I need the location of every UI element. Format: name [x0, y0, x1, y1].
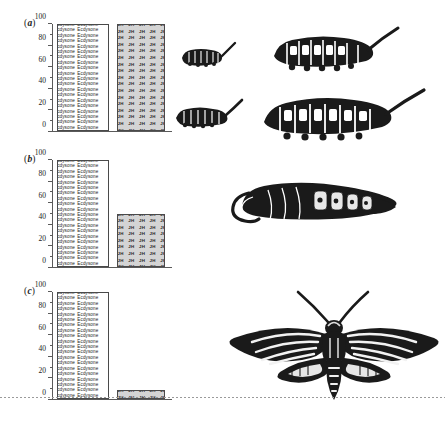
y-tick-20 — [48, 245, 52, 246]
y-tick-minor — [50, 345, 53, 346]
y-tick-label-60: 60 — [39, 324, 47, 332]
jh-bar: JH JH JH JH JH JH JH JH JH JH JH JH JH J… — [117, 214, 165, 268]
y-tick-100 — [48, 159, 52, 160]
larva-instar-2 — [172, 96, 254, 132]
y-tick-20 — [48, 377, 52, 378]
x-axis-line — [52, 131, 172, 132]
ecdysone-bar-fill-text: Ecdysone Ecdysone Ecdysone Ecdysone Ecdy… — [57, 24, 109, 131]
y-tick-minor — [50, 170, 53, 171]
jh-bar: JH JH JH JH JH JH JH JH JH JH JH JH JH J… — [117, 24, 165, 131]
y-tick-minor — [50, 55, 53, 56]
y-tick-minor — [50, 367, 53, 368]
y-tick-label-0: 0 — [42, 389, 46, 397]
panel-a: (a) 0 20 40 60 80 100 Ecdysone Ec — [0, 14, 445, 150]
y-tick-minor — [50, 256, 53, 257]
y-tick-label-100: 100 — [35, 281, 46, 289]
y-tick-label-60: 60 — [39, 56, 47, 64]
larva-instar-1 — [178, 38, 244, 70]
y-tick-label-60: 60 — [39, 192, 47, 200]
jh-bar-fill-text: JH JH JH JH JH JH JH JH JH JH JH JH JH J… — [117, 214, 165, 268]
panel-c: (c) 0 20 40 60 80 100 Ecdysone Ec — [0, 282, 445, 410]
y-tick-100 — [48, 23, 52, 24]
y-tick-0 — [48, 267, 52, 268]
x-axis-line — [52, 267, 172, 268]
y-tick-label-20: 20 — [39, 235, 47, 243]
y-tick-0 — [48, 131, 52, 132]
y-tick-minor — [50, 213, 53, 214]
y-tick-0 — [48, 399, 52, 400]
y-tick-minor — [50, 34, 53, 35]
ecdysone-bar-fill-text: Ecdysone Ecdysone Ecdysone Ecdysone Ecdy… — [57, 160, 109, 267]
panel-b-plot: 0 20 40 60 80 100 Ecdysone Ecdysone Ecdy… — [52, 160, 172, 268]
y-tick-minor — [50, 191, 53, 192]
panel-c-bars: Ecdysone Ecdysone Ecdysone Ecdysone Ecdy… — [55, 292, 172, 399]
y-tick-60 — [48, 202, 52, 203]
y-tick-minor — [50, 235, 53, 236]
y-tick-40 — [48, 356, 52, 357]
y-tick-80 — [48, 45, 52, 46]
y-tick-label-80: 80 — [39, 34, 47, 42]
y-tick-100 — [48, 291, 52, 292]
panel-b: (b) 0 20 40 60 80 100 Ecdysone Ec — [0, 150, 445, 282]
y-tick-label-40: 40 — [39, 78, 47, 86]
panel-b-bars: Ecdysone Ecdysone Ecdysone Ecdysone Ecdy… — [55, 160, 172, 267]
y-tick-minor — [50, 388, 53, 389]
y-tick-label-20: 20 — [39, 367, 47, 375]
y-tick-minor — [50, 323, 53, 324]
y-tick-40 — [48, 224, 52, 225]
y-axis-line — [52, 292, 53, 400]
hormone-metamorphosis-figure: (a) 0 20 40 60 80 100 Ecdysone Ec — [0, 0, 445, 427]
ecdysone-bar: Ecdysone Ecdysone Ecdysone Ecdysone Ecdy… — [57, 160, 109, 267]
jh-bar-fill-text: JH JH JH JH JH JH JH JH JH JH JH JH JH J… — [117, 24, 165, 131]
y-tick-minor — [50, 302, 53, 303]
larva-instar-4 — [258, 86, 445, 144]
y-tick-40 — [48, 88, 52, 89]
y-tick-60 — [48, 66, 52, 67]
pupa — [222, 176, 404, 226]
adult-moth — [228, 286, 438, 406]
panel-a-bars: Ecdysone Ecdysone Ecdysone Ecdysone Ecdy… — [55, 24, 172, 131]
figure-separator — [0, 397, 445, 398]
panel-c-label: (c) — [24, 286, 35, 296]
y-tick-80 — [48, 313, 52, 314]
y-tick-minor — [50, 99, 53, 100]
panel-a-plot: 0 20 40 60 80 100 Ecdysone Ecdysone Ecdy… — [52, 24, 172, 132]
ecdysone-bar: Ecdysone Ecdysone Ecdysone Ecdysone Ecdy… — [57, 292, 109, 399]
y-tick-label-100: 100 — [35, 13, 46, 21]
y-axis-line — [52, 24, 53, 132]
y-tick-label-20: 20 — [39, 99, 47, 107]
y-tick-20 — [48, 109, 52, 110]
y-tick-80 — [48, 181, 52, 182]
y-tick-label-40: 40 — [39, 214, 47, 222]
y-axis-line — [52, 160, 53, 268]
y-tick-label-100: 100 — [35, 149, 46, 157]
y-tick-minor — [50, 120, 53, 121]
y-tick-label-0: 0 — [42, 257, 46, 265]
x-axis-line — [52, 399, 172, 400]
larva-instar-3 — [268, 24, 410, 74]
y-tick-label-40: 40 — [39, 346, 47, 354]
panel-c-plot: 0 20 40 60 80 100 Ecdysone Ecdysone Ecdy… — [52, 292, 172, 400]
y-tick-minor — [50, 77, 53, 78]
ecdysone-bar-fill-text: Ecdysone Ecdysone Ecdysone Ecdysone Ecdy… — [57, 292, 109, 399]
y-tick-label-0: 0 — [42, 121, 46, 129]
y-tick-label-80: 80 — [39, 302, 47, 310]
y-tick-label-80: 80 — [39, 170, 47, 178]
ecdysone-bar: Ecdysone Ecdysone Ecdysone Ecdysone Ecdy… — [57, 24, 109, 131]
y-tick-60 — [48, 334, 52, 335]
